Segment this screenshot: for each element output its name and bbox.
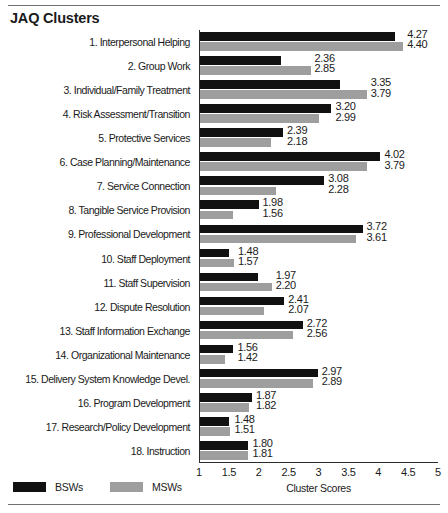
- bar-bsw: [200, 441, 248, 450]
- cluster-row: 11. Staff Supervision1.972.20: [0, 271, 448, 295]
- bar-msw: [200, 42, 403, 51]
- bar-bsw: [200, 369, 318, 378]
- x-tick-label: 4: [375, 466, 381, 478]
- cluster-row: 14. Organizational Maintenance1.561.42: [0, 343, 448, 367]
- cluster-row: 4. Risk Assessment/Transition3.202.99: [0, 102, 448, 126]
- cluster-label: 13. Staff Information Exchange: [0, 325, 190, 337]
- x-tick-label: 5: [435, 466, 441, 478]
- cluster-label: 8. Tangible Service Provision: [0, 204, 190, 216]
- x-axis-label: Cluster Scores: [199, 482, 438, 494]
- bar-value-msw: 4.40: [407, 38, 427, 50]
- bar-group: 2.412.07: [200, 295, 448, 319]
- legend-swatch-bsw: [13, 482, 46, 492]
- bar-value-msw: 2.99: [335, 111, 355, 123]
- cluster-row: 13. Staff Information Exchange2.722.56: [0, 319, 448, 343]
- cluster-label: 9. Professional Development: [0, 228, 190, 240]
- bar-group: 1.481.57: [200, 247, 448, 271]
- bar-value-msw: 2.20: [276, 279, 296, 291]
- bar-group: 1.561.42: [200, 343, 448, 367]
- bar-group: 3.082.28: [200, 174, 448, 198]
- bar-bsw: [200, 249, 229, 258]
- bar-bsw: [200, 32, 395, 41]
- x-axis-ticks: 11.522.533.544.55: [199, 466, 438, 480]
- bar-group: 1.801.81: [200, 439, 448, 463]
- cluster-row: 12. Dispute Resolution2.412.07: [0, 295, 448, 319]
- bar-group: 3.202.99: [200, 102, 448, 126]
- bar-msw: [200, 66, 311, 75]
- bar-group: 3.353.79: [200, 78, 448, 102]
- bar-bsw: [200, 128, 283, 137]
- bottom-divider: [8, 504, 440, 505]
- cluster-label: 15. Delivery System Knowledge Devel.: [0, 373, 190, 385]
- bar-group: 2.972.89: [200, 367, 448, 391]
- bar-msw: [200, 235, 356, 244]
- bar-bsw: [200, 345, 233, 354]
- bar-group: 2.392.18: [200, 126, 448, 150]
- x-tick-label: 4.5: [401, 466, 415, 478]
- bar-group: 1.972.20: [200, 271, 448, 295]
- cluster-row: 9. Professional Development3.723.61: [0, 222, 448, 246]
- bar-value-msw: 1.56: [263, 207, 283, 219]
- cluster-label: 1. Interpersonal Helping: [0, 36, 190, 48]
- bar-msw: [200, 307, 264, 316]
- legend-label-bsw: BSWs: [55, 481, 83, 493]
- bar-bsw: [200, 393, 252, 402]
- bar-value-msw: 2.85: [315, 62, 335, 74]
- x-tick-label: 1: [196, 466, 202, 478]
- bar-value-msw: 1.81: [252, 447, 272, 459]
- cluster-label: 2. Group Work: [0, 60, 190, 72]
- bar-bsw: [200, 152, 380, 161]
- chart-title: JAQ Clusters: [10, 10, 99, 26]
- cluster-label: 18. Instruction: [0, 445, 190, 457]
- cluster-label: 5. Protective Services: [0, 132, 190, 144]
- bar-value-msw: 2.18: [287, 135, 307, 147]
- cluster-label: 4. Risk Assessment/Transition: [0, 108, 190, 120]
- bar-msw: [200, 114, 319, 123]
- bar-group: 1.981.56: [200, 198, 448, 222]
- bar-value-msw: 3.79: [371, 87, 391, 99]
- legend-swatch-msw: [110, 482, 143, 492]
- bar-group: 1.871.82: [200, 391, 448, 415]
- bar-msw: [200, 379, 313, 388]
- cluster-label: 7. Service Connection: [0, 180, 190, 192]
- cluster-row: 1. Interpersonal Helping4.274.40: [0, 30, 448, 54]
- cluster-row: 8. Tangible Service Provision1.981.56: [0, 198, 448, 222]
- bar-msw: [200, 355, 225, 364]
- top-divider: [8, 5, 440, 6]
- bar-msw: [200, 259, 234, 268]
- bar-bsw: [200, 321, 303, 330]
- bar-bsw: [200, 80, 340, 89]
- cluster-row: 16. Program Development1.871.82: [0, 391, 448, 415]
- cluster-row: 2. Group Work2.362.85: [0, 54, 448, 78]
- bar-msw: [200, 138, 271, 147]
- bar-msw: [200, 331, 293, 340]
- bar-value-msw: 1.82: [256, 399, 276, 411]
- bar-msw: [200, 427, 230, 436]
- cluster-row: 6. Case Planning/Maintenance4.023.79: [0, 150, 448, 174]
- x-tick-label: 2.5: [281, 466, 295, 478]
- bar-msw: [200, 90, 367, 99]
- bar-msw: [200, 187, 276, 196]
- bar-value-msw: 3.61: [367, 231, 387, 243]
- bar-bsw: [200, 417, 229, 426]
- cluster-label: 6. Case Planning/Maintenance: [0, 156, 190, 168]
- bar-msw: [200, 283, 272, 292]
- bar-msw: [200, 403, 249, 412]
- bar-value-msw: 2.89: [322, 375, 342, 387]
- bar-bsw: [200, 273, 258, 282]
- bar-msw: [200, 451, 248, 460]
- bar-value-msw: 2.56: [307, 327, 327, 339]
- bar-value-msw: 1.57: [238, 255, 258, 267]
- bar-bsw: [200, 104, 331, 113]
- bar-value-msw: 1.42: [237, 351, 257, 363]
- cluster-label: 17. Research/Policy Development: [0, 421, 190, 433]
- cluster-label: 11. Staff Supervision: [0, 277, 190, 289]
- x-tick-label: 3.5: [341, 466, 355, 478]
- bar-group: 4.274.40: [200, 30, 448, 54]
- cluster-row: 17. Research/Policy Development1.481.51: [0, 415, 448, 439]
- bar-bsw: [200, 56, 281, 65]
- bar-value-msw: 1.51: [234, 423, 254, 435]
- bar-bsw: [200, 176, 324, 185]
- bar-bsw: [200, 297, 284, 306]
- cluster-row: 3. Individual/Family Treatment3.353.79: [0, 78, 448, 102]
